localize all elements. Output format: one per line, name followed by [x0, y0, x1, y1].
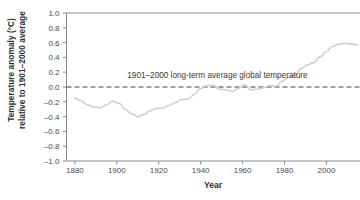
- x-tick-label: 1880: [66, 166, 84, 175]
- x-tick-label: 1920: [150, 166, 168, 175]
- y-tick-label: 1.0: [48, 9, 60, 18]
- y-tick-label: –0.2: [44, 98, 60, 107]
- x-tick-mark-group: [75, 161, 327, 165]
- y-tick-label: –0.6: [44, 127, 60, 136]
- y-tick-label: 0.4: [48, 53, 60, 62]
- x-tick-label: 2000: [318, 166, 336, 175]
- y-tick-label: 0.2: [48, 68, 60, 77]
- x-axis-title: Year: [66, 180, 360, 190]
- y-tick-label: 0.8: [48, 24, 60, 33]
- y-tick-mark-group: [63, 13, 67, 161]
- x-tick-label-group: 1880190019201940196019802000: [66, 166, 336, 175]
- x-tick-label: 1940: [192, 166, 210, 175]
- y-tick-label: 0.0: [48, 83, 60, 92]
- x-tick-label: 1980: [276, 166, 294, 175]
- y-tick-label: –0.8: [44, 142, 60, 151]
- plot-area: –1.0–0.8–0.6–0.4–0.20.00.20.40.60.81.0 1…: [0, 0, 360, 200]
- x-tick-label: 1900: [108, 166, 126, 175]
- y-tick-label: 0.6: [48, 39, 60, 48]
- x-tick-label: 1960: [234, 166, 252, 175]
- y-tick-label: –1.0: [44, 157, 60, 166]
- y-tick-label-group: –1.0–0.8–0.6–0.4–0.20.00.20.40.60.81.0: [44, 9, 60, 166]
- long-term-average-annotation: 1901–2000 long-term average global tempe…: [127, 71, 308, 80]
- y-tick-label: –0.4: [44, 113, 60, 122]
- temperature-anomaly-chart: Temperature anomaly (°C) relative to 190…: [0, 0, 360, 200]
